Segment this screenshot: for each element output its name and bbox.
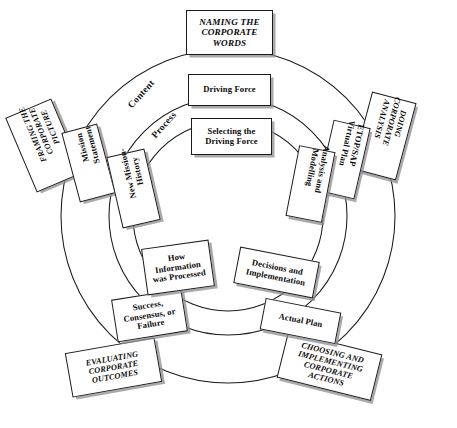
- node-how-information-was-processed[interactable]: How Information was Processed: [141, 239, 215, 295]
- node-label: Decisions and Implementation: [236, 256, 317, 290]
- node-label: How Information was Processed: [143, 249, 212, 287]
- node-label: NAMING THE CORPORATE WORDS: [187, 17, 272, 48]
- node-label: Driving Force: [189, 85, 270, 95]
- diagram-canvas: Content Process NAMING THE CORPORATE WOR…: [0, 0, 457, 428]
- node-label: Actual Plan: [263, 309, 338, 333]
- node-selecting-driving-force[interactable]: Selecting the Driving Force: [191, 118, 272, 155]
- node-label: EVALUATING CORPORATE OUTCOMES: [67, 346, 159, 389]
- node-label: Selecting the Driving Force: [192, 127, 271, 146]
- node-naming-corporate-words[interactable]: NAMING THE CORPORATE WORDS: [186, 10, 273, 55]
- node-label: Success, Consensus, or Failure: [113, 296, 186, 335]
- node-driving-force[interactable]: Driving Force: [188, 74, 271, 106]
